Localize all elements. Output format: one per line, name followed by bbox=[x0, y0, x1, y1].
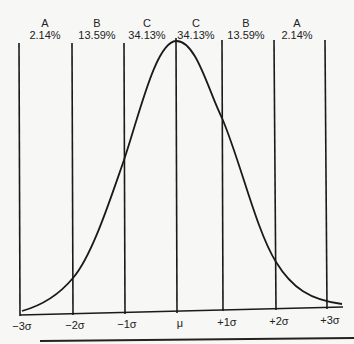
baseline-axis bbox=[20, 307, 343, 315]
tick-minus-2sigma: −2σ bbox=[55, 319, 95, 331]
vline-minus-1sigma bbox=[124, 43, 125, 314]
region-percent: 2.14% bbox=[267, 29, 327, 41]
region-percent: 2.14% bbox=[15, 29, 75, 41]
tick-minus-3sigma: −3σ bbox=[2, 320, 42, 332]
vline-plus-3sigma bbox=[325, 40, 327, 309]
region-letter: A bbox=[267, 17, 327, 29]
tick-plus-3sigma: +3σ bbox=[310, 314, 350, 326]
vline-plus-2sigma bbox=[274, 40, 276, 310]
bell-curve-diagram bbox=[0, 0, 354, 344]
vline-plus-1sigma bbox=[222, 40, 223, 311]
vline-mu bbox=[176, 38, 177, 313]
tick-mu: μ bbox=[160, 317, 200, 329]
tick-plus-2sigma: +2σ bbox=[259, 315, 299, 327]
vline-minus-3sigma bbox=[19, 43, 20, 316]
region-label-a-left: A 2.14% bbox=[15, 17, 75, 41]
vline-minus-2sigma bbox=[72, 43, 73, 315]
tick-plus-1sigma: +1σ bbox=[207, 316, 247, 328]
bottom-border bbox=[40, 338, 354, 341]
region-label-a-right: A 2.14% bbox=[267, 17, 327, 41]
normal-curve bbox=[22, 41, 342, 311]
region-letter: A bbox=[15, 17, 75, 29]
tick-minus-1sigma: −1σ bbox=[107, 318, 147, 330]
